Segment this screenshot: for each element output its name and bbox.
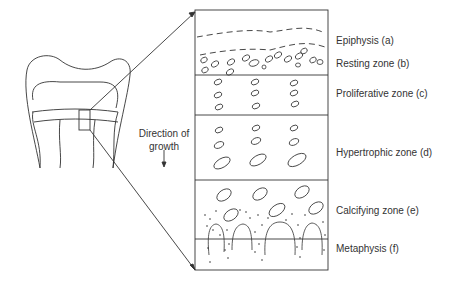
direction-label-line2: growth bbox=[129, 140, 199, 153]
label-proliferative-zone: Proliferative zone (c) bbox=[336, 88, 428, 100]
direction-label-line1: Direction of bbox=[129, 127, 199, 140]
label-metaphysis: Metaphysis (f) bbox=[336, 243, 399, 255]
label-resting-zone: Resting zone (b) bbox=[336, 58, 409, 70]
label-epiphysis: Epiphysis (a) bbox=[336, 35, 394, 47]
label-calcifying-zone: Calcifying zone (e) bbox=[336, 205, 419, 217]
bone-illustration bbox=[26, 56, 130, 168]
direction-of-growth-label: Direction of growth bbox=[129, 127, 199, 153]
label-hypertrophic-zone: Hypertrophic zone (d) bbox=[336, 147, 432, 159]
